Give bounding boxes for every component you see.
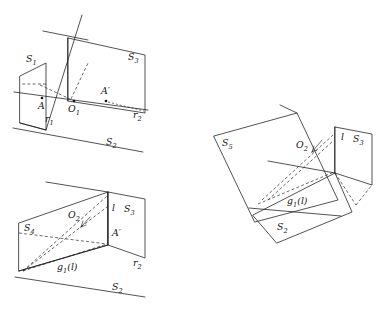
- dashed-corner-to-l-mid: [23, 207, 107, 271]
- label-s5: S5: [222, 137, 233, 151]
- label-r2: r2: [133, 109, 142, 123]
- plane-s2-outline-right: [253, 173, 352, 243]
- label-s1: S1: [26, 53, 37, 67]
- label-r2-bottom: r2: [133, 257, 142, 271]
- label-o1: O1: [68, 103, 80, 117]
- dashed-a-to-o1: [40, 85, 70, 99]
- plane-s2-front-edge: [13, 128, 143, 152]
- plane-s2-front-edge-bottom: [15, 277, 145, 297]
- plane-s5-outline: [214, 113, 338, 222]
- point-a-prime: [105, 100, 108, 103]
- label-s2: S2: [106, 136, 117, 150]
- label-o2-right: O2: [296, 139, 308, 153]
- point-o1: [73, 100, 76, 103]
- line-helper-s2-right: [249, 208, 341, 216]
- diagram-bottom-left: S4 S3 S2 l O2 A′ r2 g1(l): [15, 182, 145, 297]
- label-a-prime-bottom: A′: [111, 227, 122, 238]
- figure-root: S1 S3 S2 r1 r2 O1 A A′: [0, 0, 388, 311]
- label-l-bottom: l: [112, 202, 115, 213]
- label-g1-l-bottom: g1(l): [57, 261, 78, 275]
- line-s5-top-extension: [280, 105, 297, 113]
- line-top-helper: [43, 31, 88, 40]
- line-top-helper-bottom: [46, 182, 108, 192]
- plane-s2: [13, 123, 143, 152]
- diagram-right: S5 S3 S2 l O2 g1(l): [214, 105, 372, 243]
- geometry-figure-canvas: S1 S3 S2 r1 r2 O1 A A′: [0, 0, 388, 311]
- label-l-right: l: [341, 131, 344, 142]
- plane-s2-right: [253, 173, 352, 243]
- plane-s5: [214, 113, 338, 222]
- label-o2-bottom: O2: [68, 209, 80, 223]
- plane-s1-outline: [20, 63, 46, 130]
- label-a-prime: A′: [100, 85, 111, 96]
- dashed-o1-upward: [71, 63, 88, 99]
- label-s3-right: S3: [353, 133, 364, 147]
- label-g1-l-right: g1(l): [287, 195, 308, 209]
- plane-s2-left-edge: [20, 123, 46, 130]
- dashed-lower-right-return: [356, 185, 372, 205]
- label-s3-bottom: S3: [124, 203, 135, 217]
- point-a: [41, 97, 44, 100]
- diagram-top-left: S1 S3 S2 r1 r2 O1 A A′: [13, 15, 148, 152]
- plane-s1: [20, 63, 46, 130]
- line-r2: [14, 92, 148, 110]
- line-helper-s5-right: [268, 161, 335, 173]
- label-a: A: [37, 100, 45, 111]
- dashed-a-prime-to-r2: [108, 102, 144, 111]
- label-s2-right: S2: [277, 221, 288, 235]
- dashed-ray-low-right: [258, 172, 334, 204]
